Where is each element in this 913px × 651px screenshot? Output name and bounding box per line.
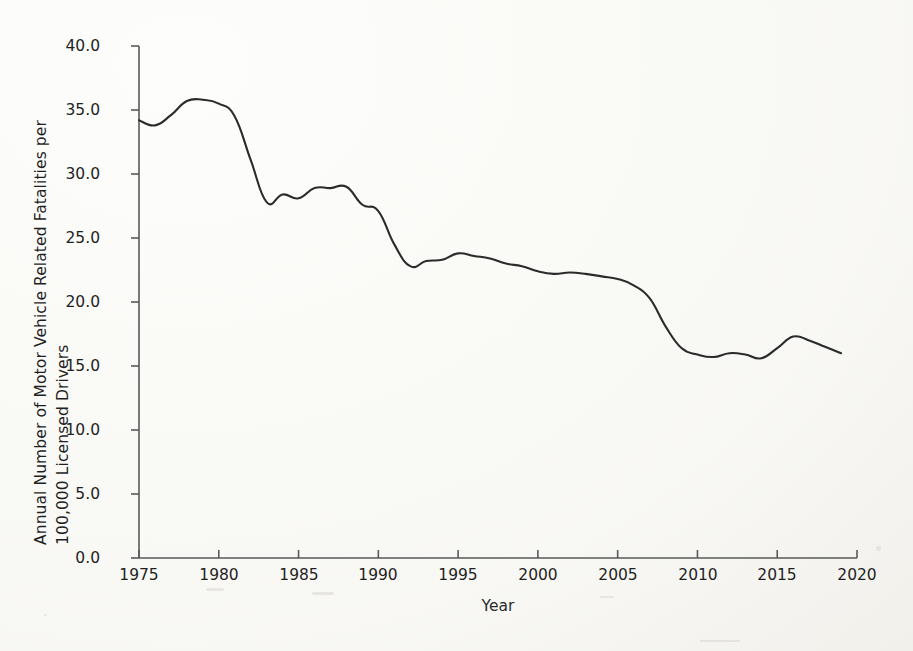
y-axis-ticks (131, 46, 139, 558)
chart-plot-area: Annual Number of Motor Vehicle Related F… (0, 0, 913, 651)
fatality-rate-line (139, 99, 841, 359)
axes-group (139, 46, 857, 558)
chart-svg (0, 0, 913, 651)
x-axis-ticks (139, 550, 857, 558)
figure-page: Annual Number of Motor Vehicle Related F… (0, 0, 913, 651)
